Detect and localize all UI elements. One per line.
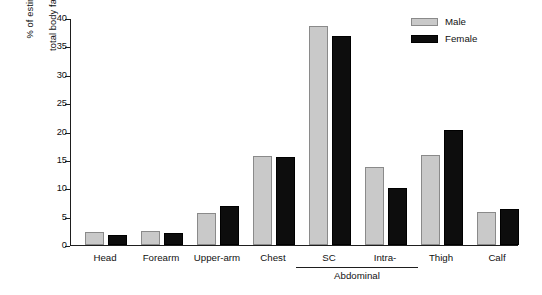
plot-area: 0510152025303540 — [70, 19, 518, 246]
y-tick-label: 5 — [62, 212, 67, 223]
bar-male — [253, 156, 272, 245]
bar-group — [253, 19, 295, 245]
bar-female — [276, 157, 295, 245]
bar-female — [444, 130, 463, 245]
y-tick-label: 10 — [57, 183, 67, 194]
y-axis-title: % of estimated total body fat volume — [14, 0, 44, 82]
bar-group — [365, 19, 407, 245]
y-tick-label: 25 — [57, 98, 67, 109]
x-category-label: Calf — [462, 252, 532, 264]
bar-female — [332, 36, 351, 245]
y-tick-label: 40 — [57, 13, 67, 24]
bars-layer — [71, 19, 518, 245]
bar-male — [85, 232, 104, 245]
bar-group — [141, 19, 183, 245]
legend-swatch-female-icon — [411, 35, 438, 43]
x-axis-line — [70, 245, 518, 246]
bar-male — [477, 212, 496, 245]
legend-item-male: Male — [411, 15, 531, 29]
bar-female — [164, 233, 183, 245]
legend-label-female: Female — [445, 33, 477, 45]
bar-female — [388, 188, 407, 245]
bar-male — [421, 155, 440, 245]
bar-group — [421, 19, 463, 245]
bar-female — [500, 209, 519, 245]
bar-male — [309, 26, 328, 245]
y-tick-label: 15 — [57, 155, 67, 166]
bar-chart: % of estimated total body fat volume 051… — [0, 0, 542, 295]
y-axis-title-line1: % of estimated — [25, 0, 35, 38]
abdominal-bracket-label: Abdominal — [296, 270, 418, 282]
y-tick-label: 35 — [57, 41, 67, 52]
legend-label-male: Male — [445, 16, 466, 28]
legend: Male Female — [411, 15, 531, 49]
bar-male — [141, 231, 160, 245]
bar-male — [197, 213, 216, 245]
legend-item-female: Female — [411, 32, 531, 46]
abdominal-bracket-line — [296, 267, 418, 268]
bar-group — [197, 19, 239, 245]
bar-group — [85, 19, 127, 245]
bar-female — [108, 235, 127, 245]
bar-male — [365, 167, 384, 245]
y-tick-label: 20 — [57, 127, 67, 138]
y-tick-0: 0 — [70, 246, 75, 247]
bar-group — [477, 19, 519, 245]
legend-swatch-male-icon — [411, 18, 438, 26]
bar-group — [309, 19, 351, 245]
y-tick-label: 0 — [62, 240, 67, 251]
y-tick-label: 30 — [57, 70, 67, 81]
bar-female — [220, 206, 239, 245]
